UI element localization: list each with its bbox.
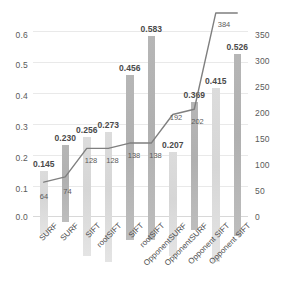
- line-value-label-5: 138: [149, 151, 162, 160]
- y-axis-tick-right-4: 150: [255, 134, 285, 144]
- line-value-label-0: 64: [40, 192, 48, 201]
- y-axis-tick-left-2: 0.4: [2, 91, 28, 101]
- x-axis-label-1: SURF: [59, 221, 81, 243]
- x-axis-labels: SURFSURFSIFTrootSIFTSIFTrootSIFTOpponent…: [33, 219, 248, 289]
- plot-area: 0.1450.2300.2560.2730.4560.5830.2070.369…: [33, 26, 248, 216]
- y-axis-tick-right-0: 350: [255, 30, 285, 40]
- line-value-label-7: 202: [191, 117, 204, 126]
- y-axis-tick-left-5: 0.1: [2, 184, 28, 194]
- y-axis-tick-left-0: 0.6: [2, 30, 28, 40]
- line-series: [33, 0, 248, 216]
- x-axis-label-0: SURF: [37, 221, 59, 243]
- y-axis-tick-left-1: 0.5: [2, 60, 28, 70]
- y-axis-tick-right-5: 100: [255, 160, 285, 170]
- y-axis-tick-right-2: 250: [255, 82, 285, 92]
- line-value-label-8: 384: [218, 20, 231, 29]
- line-value-label-1: 74: [63, 187, 71, 196]
- y-axis-tick-right-3: 200: [255, 108, 285, 118]
- y-axis-tick-left-3: 0.3: [2, 122, 28, 132]
- line-value-label-6: 192: [170, 113, 183, 122]
- line-value-label-3: 128: [106, 156, 119, 165]
- line-value-label-4: 138: [128, 151, 141, 160]
- line-value-label-2: 128: [85, 156, 98, 165]
- y-axis-tick-right-1: 300: [255, 56, 285, 66]
- y-axis-tick-left-4: 0.2: [2, 153, 28, 163]
- line-path: [44, 13, 238, 182]
- y-axis-tick-right-6: 50: [255, 186, 285, 196]
- y-axis-tick-left-6: 0.0: [2, 212, 28, 222]
- chart-container: 0.6 0.5 0.4 0.3 0.2 0.1 0.0 350 300 250 …: [0, 0, 305, 291]
- y-axis-tick-right-7: 0: [255, 212, 285, 222]
